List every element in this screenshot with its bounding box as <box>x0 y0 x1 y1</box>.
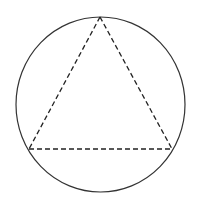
triangle-edge-left <box>29 17 100 149</box>
inscribed-triangle-diagram <box>0 0 200 206</box>
circle <box>16 17 185 192</box>
triangle-edge-right <box>100 17 172 149</box>
